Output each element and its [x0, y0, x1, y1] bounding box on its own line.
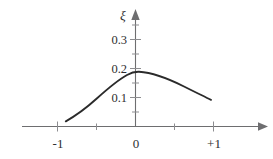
data-curve — [66, 72, 211, 122]
x-tick-label-zero: 0 — [133, 136, 140, 151]
chart-figure: ξ 0.3 0.2 0.1 -1 0 +1 — [0, 0, 273, 159]
y-tick-label-0.1: 0.1 — [111, 91, 127, 105]
x-tick-label-plus1: +1 — [207, 136, 221, 151]
plot-canvas: ξ 0.3 0.2 0.1 -1 0 +1 — [0, 0, 273, 159]
x-axis-arrow-icon — [258, 122, 268, 130]
y-tick-label-0.2: 0.2 — [111, 62, 127, 76]
y-tick-label-0.3: 0.3 — [111, 33, 127, 47]
x-tick-label-minus1: -1 — [53, 136, 64, 151]
y-axis-arrow-icon — [131, 9, 139, 20]
y-axis-title: ξ — [120, 8, 126, 23]
